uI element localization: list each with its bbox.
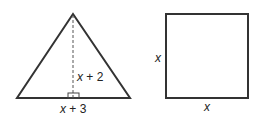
square-side-label-bottom: x [203,100,211,114]
diagram-canvas: x + 2 x + 3 x x [0,0,260,123]
triangle-figure: x + 2 x + 3 [17,14,130,116]
triangle-height-label: x + 2 [76,70,104,84]
square-figure: x x [154,14,248,114]
square-outline [166,14,248,98]
square-side-label-left: x [154,51,162,65]
triangle-base-label: x + 3 [59,102,87,116]
